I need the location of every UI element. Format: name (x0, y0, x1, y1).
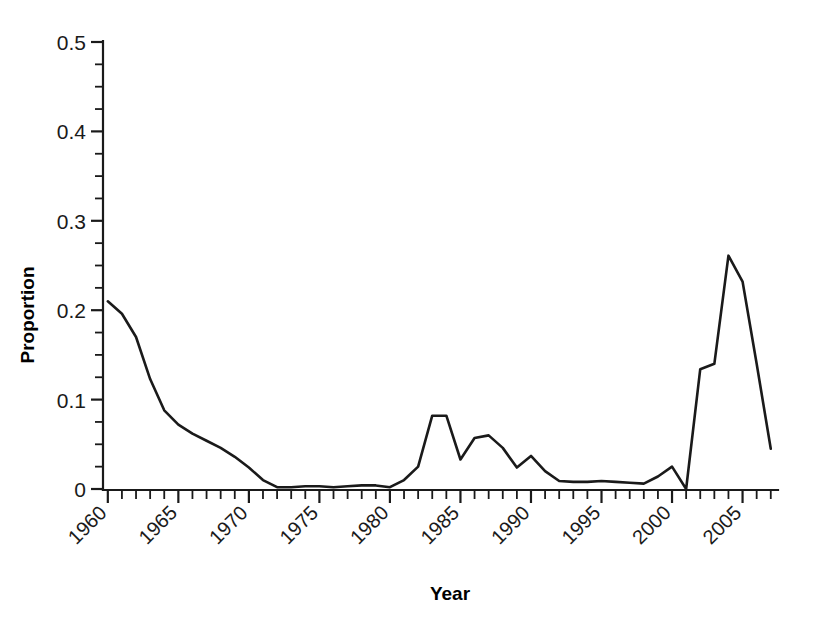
y-tick-label: 0.5 (57, 31, 86, 54)
y-axis-title: Proportion (17, 266, 38, 363)
x-axis-title: Year (430, 583, 471, 604)
chart-figure: 00.10.20.30.40.5 Proportion 196019651970… (0, 0, 815, 622)
line-chart: 00.10.20.30.40.5 Proportion 196019651970… (0, 0, 815, 622)
y-tick-label: 0.1 (57, 389, 86, 412)
y-tick-label: 0 (74, 478, 86, 501)
y-tick-label: 0.4 (57, 120, 87, 143)
y-tick-label: 0.2 (57, 299, 86, 322)
chart-background (0, 0, 815, 622)
y-tick-label: 0.3 (57, 210, 86, 233)
